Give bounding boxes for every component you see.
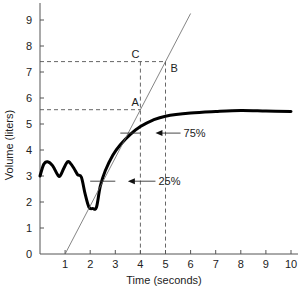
- y-tick-label: 1: [26, 222, 32, 234]
- x-tick-label: 2: [87, 258, 93, 270]
- label-point-b: B: [171, 62, 178, 74]
- x-tick-label: 5: [162, 258, 168, 270]
- ticks: 123456789100123456789: [26, 14, 297, 270]
- x-tick-label: 7: [213, 258, 219, 270]
- y-axis-title: Volume (liters): [3, 110, 15, 180]
- tangent-line: [65, 14, 191, 255]
- x-tick-label: 10: [285, 258, 297, 270]
- axes: [40, 3, 298, 254]
- y-tick-label: 9: [26, 14, 32, 26]
- y-tick-label: 5: [26, 118, 32, 130]
- x-tick-label: 6: [188, 258, 194, 270]
- y-tick-label: 0: [26, 248, 32, 260]
- x-tick-label: 9: [263, 258, 269, 270]
- label-pct-75: 75%: [184, 127, 206, 139]
- y-tick-label: 3: [26, 170, 32, 182]
- x-tick-label: 3: [112, 258, 118, 270]
- y-tick-label: 7: [26, 66, 32, 78]
- y-tick-label: 8: [26, 40, 32, 52]
- y-tick-label: 2: [26, 196, 32, 208]
- label-point-a: A: [131, 96, 139, 108]
- y-tick-label: 6: [26, 92, 32, 104]
- x-tick-label: 1: [62, 258, 68, 270]
- reference-lines: [40, 62, 166, 254]
- arrow-left-icon: [155, 130, 162, 136]
- x-tick-label: 4: [137, 258, 143, 270]
- label-pct-25: 25%: [158, 175, 180, 187]
- arrow-left-icon: [128, 178, 135, 184]
- x-tick-label: 8: [238, 258, 244, 270]
- label-point-c: C: [131, 48, 139, 60]
- volume-time-chart: 123456789100123456789 ABC75%25% Time (se…: [0, 0, 303, 288]
- y-tick-label: 4: [26, 144, 32, 156]
- x-axis-title: Time (seconds): [126, 274, 201, 286]
